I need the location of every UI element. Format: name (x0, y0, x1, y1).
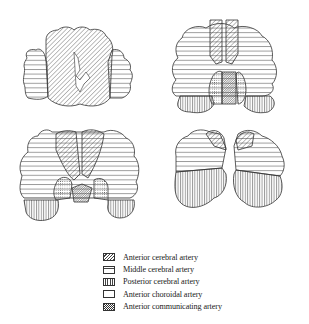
legend-label: Anterior cerebral artery (123, 253, 198, 262)
legend-label: Anterior communicating artery (123, 302, 222, 311)
section-3 (20, 130, 139, 221)
anterior-communicating (72, 184, 92, 202)
stipple-swatch-icon (103, 290, 115, 298)
section-4 (175, 130, 284, 207)
legend-item-middle-cerebral: Middle cerebral artery (103, 263, 309, 275)
legend-label: Middle cerebral artery (123, 265, 194, 274)
pca-territory-left (24, 200, 59, 221)
legend-item-posterior-cerebral: Posterior cerebral artery (103, 276, 309, 288)
pca-territory-right (233, 170, 282, 207)
legend-item-anterior-choroidal: Anterior choroidal artery (103, 288, 309, 300)
dense-hatch-swatch-icon (103, 303, 115, 311)
legend-label: Anterior choroidal artery (123, 290, 202, 299)
pca-territory-left (175, 168, 226, 207)
section-1 (23, 27, 132, 106)
pca-territory-left (178, 96, 214, 113)
horizontal-lines-swatch-icon (103, 266, 115, 274)
anterior-choroidal-right (94, 178, 108, 200)
aca-territory-left (210, 20, 222, 64)
aca-territory-right (226, 20, 238, 64)
diagonal-hatch-swatch-icon (103, 253, 115, 261)
vertical-lines-swatch-icon (103, 278, 115, 286)
section-2 (172, 20, 276, 113)
legend: Anterior cerebral artery Middle cerebral… (103, 251, 309, 313)
legend-item-anterior-cerebral: Anterior cerebral artery (103, 251, 309, 263)
mca-territory-left (23, 49, 48, 99)
legend-label: Posterior cerebral artery (123, 277, 200, 286)
pca-territory-right (108, 200, 135, 218)
brain-sections-figure (0, 0, 309, 250)
pca-territory-right (244, 96, 274, 113)
legend-item-anterior-communicating: Anterior communicating artery (103, 301, 309, 313)
anterior-communicating (222, 72, 236, 104)
